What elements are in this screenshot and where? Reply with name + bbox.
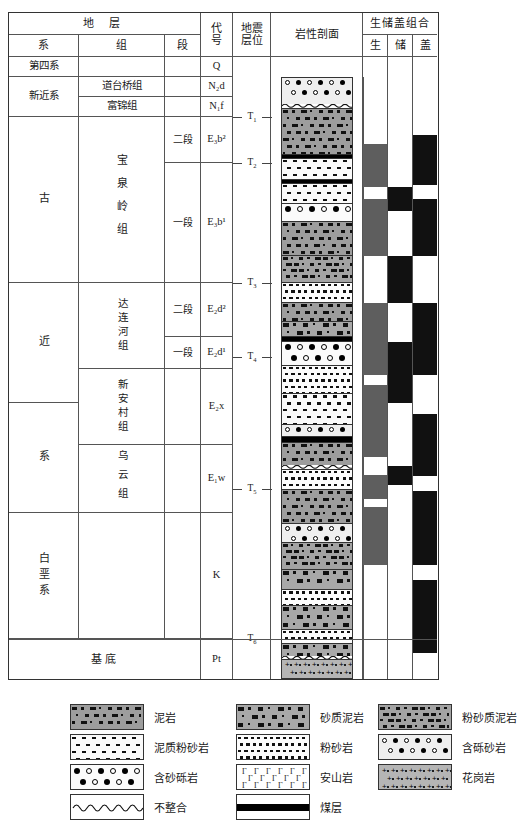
- seismic-tick-left-T4: [233, 357, 242, 358]
- code-n2d-text: N₂d: [208, 80, 225, 92]
- legend-item: +++++++++++++++++++++++花岗岩: [378, 764, 495, 790]
- legend-label: 粉砂岩: [320, 739, 353, 755]
- code-e3b2-text: E₃b²: [207, 133, 225, 145]
- legend-label: 煤层: [320, 799, 342, 815]
- legend-item: 含砾砂岩: [378, 734, 506, 760]
- legend-swatch-muddy-siltstone: [70, 734, 144, 760]
- row-system-paleogene-1: 古: [9, 117, 79, 283]
- legend-pattern-unconformity: [71, 795, 143, 819]
- row-formation-xinancun: 新安村组: [79, 369, 165, 445]
- header-seismic-line1: 地震: [241, 23, 263, 35]
- legend-swatch-mudstone: [70, 704, 144, 730]
- header-reservoir: 储: [388, 35, 413, 57]
- basement-separator: [9, 639, 437, 640]
- row-member-wuyun-empty: [165, 445, 201, 513]
- legend-swatch-coal-seam: [236, 794, 310, 820]
- legend-label: 安山岩: [320, 769, 353, 785]
- header-member: 段: [165, 35, 201, 57]
- row-system-basement: 基底: [9, 639, 201, 679]
- label-paleogene-jin: 近: [37, 335, 50, 351]
- cap-rock-block: [413, 303, 437, 375]
- header-system: 系: [9, 35, 79, 57]
- source-rock-block: [363, 385, 387, 457]
- reservoir-block: [388, 187, 412, 211]
- row-member-bql-1: 一段: [165, 163, 201, 283]
- row-code-e2x: E₂x: [201, 369, 233, 445]
- header-assemblage: 生储盖组合: [363, 13, 437, 35]
- strata-table: 地 层 代 号 地震 层位 岩性剖面 生储盖组合 系 组 段 生 储 盖 第四系…: [8, 12, 439, 680]
- row-system-quaternary: 第四系: [9, 57, 79, 77]
- header-seismic-line2: 层位: [241, 35, 263, 47]
- row-code-pt: Pt: [201, 639, 233, 679]
- label-wuyun: 乌云组: [115, 450, 127, 507]
- label-paleogene-xi: 系: [37, 450, 50, 466]
- row-formation-quaternary-empty: [79, 57, 165, 77]
- seismic-T4-label: T4: [247, 351, 256, 363]
- row-code-k: K: [201, 513, 233, 639]
- row-member-fujin-empty: [165, 97, 201, 117]
- header-code: 代 号: [201, 13, 233, 57]
- label-paleogene-gu: 古: [37, 192, 50, 208]
- header-formation: 组: [79, 35, 165, 57]
- lithology-cell-border: [271, 57, 363, 679]
- row-member-dlh-2: 二段: [165, 283, 201, 337]
- row-system-cretaceous: 白垩系: [9, 513, 79, 639]
- seismic-tick-left-T1: [233, 117, 242, 118]
- legend-item: 煤层: [236, 794, 342, 820]
- label-basement: 基底: [91, 653, 119, 666]
- row-member-daotaiqiao-empty: [165, 77, 201, 97]
- legend-label: 泥岩: [154, 709, 176, 725]
- row-code-n2d: N₂d: [201, 77, 233, 97]
- legend-label: 含砾砂岩: [462, 739, 506, 755]
- row-code-q: Q: [201, 57, 233, 77]
- cap-rock-block: [413, 491, 437, 565]
- legend-item: ΓΓΓΓΓΓΓΓΓΓΓΓΓΓΓΓΓ安山岩: [236, 764, 353, 790]
- seismic-T3-label: T3: [247, 277, 256, 289]
- legend-pattern-mudstone: [71, 705, 143, 729]
- code-e1w-text: E₁w: [208, 472, 226, 484]
- label-xinancun: 新安村组: [115, 379, 127, 435]
- legend-panel: 泥岩砂质泥岩粉砂质泥岩泥质粉砂岩粉砂岩含砾砂岩含砂砾岩ΓΓΓΓΓΓΓΓΓΓΓΓΓ…: [8, 700, 439, 818]
- code-pt-text: Pt: [212, 653, 221, 665]
- seismic-column: [233, 57, 271, 679]
- legend-pattern-andesite: ΓΓΓΓΓΓΓΓΓΓΓΓΓΓΓΓΓ: [237, 765, 309, 789]
- legend-pattern-sand-bearing-conglomerate: [71, 765, 143, 789]
- cap-rock-block: [413, 135, 437, 185]
- header-strata-group: 地 层: [9, 13, 201, 35]
- legend-label: 花岗岩: [462, 769, 495, 785]
- header-seismic-horizon: 地震 层位: [233, 13, 271, 57]
- legend-item: 砂质泥岩: [236, 704, 364, 730]
- legend-swatch-gravel-bearing-sandstone: [378, 734, 452, 760]
- legend-item: 粉砂岩: [236, 734, 353, 760]
- seismic-T5-label: T5: [247, 483, 256, 495]
- header-cap: 盖: [413, 35, 437, 57]
- seismic-tick-left-T2: [233, 163, 242, 164]
- seismic-T2-label: T2: [247, 157, 256, 169]
- legend-label: 粉砂质泥岩: [462, 709, 517, 725]
- row-system-paleogene-2: 近: [9, 283, 79, 403]
- header-source: 生: [363, 35, 388, 57]
- source-rock-block: [363, 475, 387, 499]
- reservoir-block: [388, 466, 412, 485]
- legend-swatch-granite: +++++++++++++++++++++++: [378, 764, 452, 790]
- legend-pattern-siltstone: [237, 735, 309, 759]
- legend-item: 泥岩: [70, 704, 176, 730]
- source-rock-block: [363, 303, 387, 375]
- row-code-e3b1: E₃b¹: [201, 163, 233, 283]
- row-formation-dalianhe: 达连河组: [79, 283, 165, 369]
- seismic-tick-left-T3: [233, 283, 242, 284]
- row-member-dlh-1: 一段: [165, 337, 201, 369]
- reservoir-block: [388, 256, 412, 303]
- code-e2d1-text: E₂d¹: [207, 346, 225, 358]
- row-formation-wuyun: 乌云组: [79, 445, 165, 513]
- source-rock-block: [363, 199, 387, 256]
- legend-pattern-sandy-mudstone: [237, 705, 309, 729]
- row-formation-baoquanling: 宝泉岭组: [79, 117, 165, 283]
- legend-item: 含砂砾岩: [70, 764, 198, 790]
- code-n1f-text: N₁f: [209, 100, 224, 112]
- row-code-e3b2: E₃b²: [201, 117, 233, 163]
- row-formation-fujin: 富锦组: [79, 97, 165, 117]
- row-member-xinancun-empty: [165, 369, 201, 445]
- legend-swatch-sandy-mudstone: [236, 704, 310, 730]
- assemblage-cap-column: [413, 57, 437, 679]
